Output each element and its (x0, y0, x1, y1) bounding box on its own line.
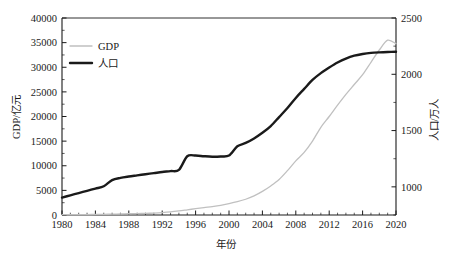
x-tick-label: 2020 (386, 219, 407, 230)
legend-label: 人口 (98, 58, 118, 69)
y2-tick-label: 1000 (401, 182, 422, 193)
legend-label: GDP (98, 41, 119, 52)
dual-axis-line-chart: 1980198419881992199620002004200820122016… (0, 0, 453, 261)
y2-tick-label: 2000 (401, 69, 422, 80)
x-axis-title: 年份 (216, 238, 237, 250)
x-tick-label: 2016 (352, 219, 373, 230)
y-tick-label: 30000 (31, 62, 57, 73)
chart-container: 1980198419881992199620002004200820122016… (0, 0, 453, 261)
x-tick-label: 2012 (319, 219, 340, 230)
y2-tick-label: 2500 (401, 13, 422, 24)
x-tick-label: 1988 (118, 219, 139, 230)
y-tick-label: 40000 (31, 13, 57, 24)
y2-tick-label: 1500 (401, 125, 422, 136)
y-tick-label: 20000 (31, 111, 57, 122)
y-axis-left-title: GDP/亿元 (10, 94, 22, 139)
y-tick-label: 35000 (31, 37, 57, 48)
x-axis-tick-labels: 1980198419881992199620002004200820122016… (52, 219, 407, 230)
x-tick-label: 2008 (285, 219, 306, 230)
x-tick-label: 1996 (185, 219, 206, 230)
y-tick-label: 0 (52, 210, 57, 221)
y-tick-label: 15000 (31, 136, 57, 147)
x-tick-label: 1984 (85, 219, 107, 230)
x-tick-label: 2004 (252, 219, 274, 230)
y-tick-label: 5000 (36, 185, 57, 196)
x-tick-label: 1992 (152, 219, 173, 230)
x-tick-label: 2000 (219, 219, 240, 230)
y-tick-label: 25000 (31, 87, 57, 98)
y-axis-right-title: 人口/万人 (429, 98, 440, 142)
y-tick-label: 10000 (31, 160, 57, 171)
